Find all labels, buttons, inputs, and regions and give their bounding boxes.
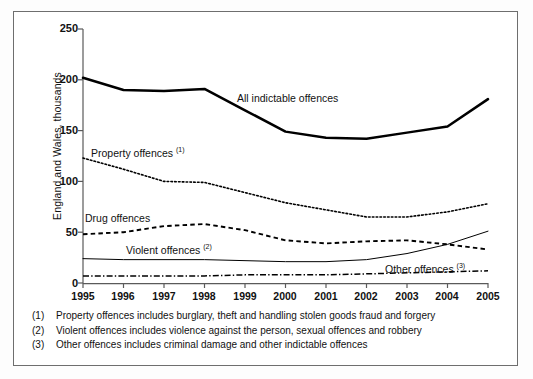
series-line (83, 158, 488, 217)
series-label-text: Property offences (91, 147, 176, 159)
series-label-footnote-ref: (2) (203, 243, 212, 250)
footnote-text: Violent offences includes violence again… (56, 324, 502, 339)
series-label-text: All indictable offences (237, 92, 338, 104)
figure-container: England and Wales, thousands 250 200 150… (0, 0, 533, 379)
footnote-item: (1) Property offences includes burglary,… (32, 309, 502, 324)
series-all-indictable-offences (83, 78, 488, 139)
footnote-number: (3) (32, 338, 56, 353)
series-label-text: Other offences (385, 263, 457, 275)
series-line (83, 78, 488, 139)
series-label-footnote-ref: (1) (176, 146, 185, 153)
footnote-text: Property offences includes burglary, the… (56, 309, 502, 324)
series-label-property-offences: Property offences (1) (91, 146, 185, 159)
y-axis-ticks (78, 29, 83, 283)
series-property-offences (83, 158, 488, 217)
footnotes-list: (1) Property offences includes burglary,… (32, 309, 502, 353)
series-label-other-offences: Other offences (3) (385, 262, 465, 275)
series-label-violent-offences: Violent offences (2) (126, 243, 212, 256)
footnote-number: (2) (32, 324, 56, 339)
series-label-footnote-ref: (3) (457, 262, 466, 269)
series-label-drug-offences: Drug offences (85, 212, 150, 224)
series-label-text: Violent offences (126, 244, 203, 256)
footnote-item: (3) Other offences includes criminal dam… (32, 338, 502, 353)
series-label-text: Drug offences (85, 212, 150, 224)
footnote-item: (2) Violent offences includes violence a… (32, 324, 502, 339)
footnote-number: (1) (32, 309, 56, 324)
series-label-all-indictable-offences: All indictable offences (237, 92, 338, 104)
footnote-text: Other offences includes criminal damage … (56, 338, 502, 353)
